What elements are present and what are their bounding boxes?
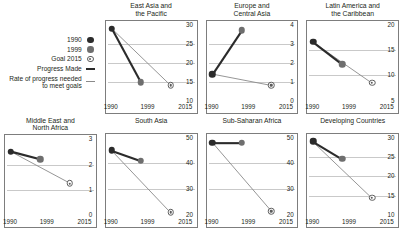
legend-label-progress-made: Progress Made	[37, 65, 82, 73]
progress-made-line	[313, 141, 342, 158]
thick-dark-line-icon	[86, 68, 95, 70]
filled-gray-circle-icon	[86, 46, 95, 53]
thin-gray-line-icon	[86, 81, 95, 82]
y-axis-tick-label: 1	[79, 187, 94, 193]
needed-rate-line	[212, 74, 271, 85]
y-axis-tick-label: 3	[280, 41, 295, 47]
needed-rate-line	[313, 141, 372, 197]
bullseye-target-icon	[86, 56, 95, 63]
filled-dark-circle-icon	[86, 37, 95, 44]
x-axis-tick-label: 2015	[380, 104, 394, 111]
x-axis-tick-label: 1990	[104, 104, 118, 111]
plot-frame: 1990199920150123	[4, 134, 97, 228]
panel-title-line: the Caribbean	[306, 10, 399, 18]
y-axis-tick-label: 15	[381, 192, 396, 198]
panel-title: Middle East andNorth Africa	[4, 117, 97, 135]
panel-body: South Asia19901999201520304050	[105, 117, 198, 229]
legend-label-1990: 1990	[67, 36, 82, 44]
y-axis-tick-label: 15	[381, 47, 396, 53]
x-axis-tick-label: 1990	[305, 104, 319, 111]
y-axis-tick-label: 30	[180, 22, 195, 28]
plot-frame: 19901999201520304050	[105, 133, 198, 229]
panel-title-line: Sub-Saharan Africa	[206, 117, 299, 125]
x-axis-tick-label: 1999	[40, 219, 54, 226]
plot-area: 0123	[7, 139, 79, 215]
y-axis-tick-label: 20	[381, 22, 396, 28]
data-point-1990	[108, 25, 115, 32]
x-axis-tick-label: 1990	[305, 219, 319, 226]
panel-body: Latin America andthe Caribbean1990199920…	[306, 2, 399, 114]
panel-title-line: South Asia	[105, 117, 198, 125]
progress-made-line	[313, 42, 342, 64]
legend-item-progress-made: Progress Made	[4, 65, 95, 73]
panel-sub-saharan-africa: Sub-Saharan Africa19901999201520304050	[202, 115, 303, 230]
panel-developing-countries: Developing Countries19901999201510152025…	[302, 115, 403, 230]
y-axis-tick-label: 4	[280, 22, 295, 28]
series-layer	[209, 25, 281, 101]
panel-title-line: Central Asia	[206, 10, 299, 18]
x-axis-tick-label: 1999	[140, 219, 154, 226]
data-point-goal-2015	[268, 82, 275, 89]
plot-area: 20304050	[108, 138, 180, 216]
data-point-goal-2015	[268, 208, 275, 215]
panel-body: Developing Countries19901999201510152025…	[306, 117, 399, 229]
panel-east-asia-and-the-pacific: East Asia andthe Pacific1990199920151015…	[101, 0, 202, 115]
x-axis-tick-label: 1999	[342, 104, 356, 111]
panel-body: Europe andCentral Asia19901999201501234	[206, 2, 299, 114]
panel-south-asia: South Asia19901999201520304050	[101, 115, 202, 230]
panel-title-line: Latin America and	[306, 2, 399, 10]
panel-title: Latin America andthe Caribbean	[306, 2, 399, 20]
data-point-1990	[310, 39, 317, 46]
panel-title-line: the Pacific	[105, 10, 198, 18]
plot-area: 20304050	[209, 138, 281, 216]
data-point-1990	[108, 147, 115, 154]
x-axis-tick-label: 1999	[241, 104, 255, 111]
panel-title-line: Developing Countries	[306, 117, 399, 125]
data-point-goal-2015	[369, 80, 376, 87]
legend-label-rate-needed: Rate of progress needed to meet goals	[4, 75, 82, 90]
plot-area: 5101520	[309, 25, 381, 101]
y-axis-tick-label: 40	[280, 160, 295, 166]
plot-area: 1015202530	[309, 138, 381, 216]
progress-made-line	[212, 30, 241, 74]
plot-frame: 1990199920151015202530	[306, 133, 399, 229]
x-axis-tick-label: 2015	[279, 104, 293, 111]
x-axis-tick-label: 1999	[241, 219, 255, 226]
panel-title: South Asia	[105, 117, 198, 133]
y-axis-tick-label: 20	[180, 212, 195, 218]
y-axis-tick-label: 3	[79, 136, 94, 142]
data-point-1990	[8, 149, 15, 156]
y-axis-tick-label: 25	[180, 41, 195, 47]
x-axis-tick-label: 2015	[178, 219, 192, 226]
progress-made-line	[11, 152, 40, 160]
x-axis-tick-label: 2015	[380, 219, 394, 226]
plot-area: 1015202530	[108, 25, 180, 101]
data-point-1990	[310, 138, 317, 145]
data-point-1990	[209, 71, 216, 78]
series-layer	[309, 138, 381, 216]
y-axis-tick-label: 0	[79, 212, 94, 218]
data-point-1999	[339, 61, 346, 68]
legend-label-goal-2015: Goal 2015	[51, 55, 81, 63]
legend-item-rate-needed: Rate of progress needed to meet goals	[4, 75, 95, 90]
data-point-goal-2015	[167, 209, 174, 216]
x-axis-tick-label: 1990	[204, 104, 218, 111]
y-axis-tick-label: 20	[280, 212, 295, 218]
y-axis-tick-label: 2	[79, 161, 94, 167]
series-layer	[7, 139, 79, 215]
data-point-1999	[37, 156, 44, 163]
panel-middle-east-and-north-africa: Middle East andNorth Africa1990199920150…	[0, 115, 101, 230]
series-layer	[209, 138, 281, 216]
y-axis-tick-label: 15	[180, 78, 195, 84]
plot-frame: 19901999201501234	[206, 20, 299, 114]
series-layer	[108, 138, 180, 216]
y-axis-tick-label: 30	[280, 186, 295, 192]
y-axis-tick-label: 50	[180, 134, 195, 140]
x-axis-tick-label: 2015	[178, 104, 192, 111]
data-point-1999	[339, 156, 346, 163]
data-point-goal-2015	[67, 180, 74, 187]
legend-item-goal-2015: Goal 2015	[4, 55, 95, 63]
y-axis-tick-label: 20	[180, 60, 195, 66]
y-axis-tick-label: 2	[280, 60, 295, 66]
needed-rate-line	[112, 29, 171, 86]
